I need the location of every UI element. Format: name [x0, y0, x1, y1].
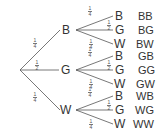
node-WB: B — [115, 90, 123, 102]
outcome-WG: WG — [135, 105, 154, 116]
outcome-BB: BB — [138, 11, 153, 22]
outcome-GG: GG — [138, 65, 155, 76]
node-B: B — [62, 24, 70, 36]
node-BG: G — [115, 24, 124, 36]
prob-GG: 12 — [106, 60, 112, 71]
node-GG: G — [115, 64, 124, 76]
node-W: W — [60, 104, 71, 116]
outcome-GB: GB — [138, 51, 154, 62]
prob-BG: 12 — [106, 20, 112, 31]
outcome-BW: BW — [136, 39, 154, 50]
prob-GB: 14 — [87, 47, 93, 58]
prob-WW: 14 — [88, 119, 94, 130]
prob-WB: 14 — [87, 87, 93, 98]
outcome-WW: WW — [133, 119, 154, 130]
outcome-BG: BG — [138, 25, 154, 36]
node-G: G — [61, 64, 70, 76]
node-WG: G — [115, 104, 124, 116]
node-GB: B — [115, 50, 123, 62]
prob-WG: 12 — [106, 100, 112, 111]
prob-BB: 14 — [87, 6, 93, 17]
node-WW: W — [114, 118, 125, 130]
outcome-WB: WB — [136, 91, 154, 102]
prob-root-B: 14 — [32, 38, 38, 49]
prob-root-W: 14 — [32, 92, 38, 103]
prob-root-G: 12 — [34, 60, 40, 71]
outcome-GW: GW — [136, 79, 155, 90]
node-BB: B — [115, 10, 123, 22]
